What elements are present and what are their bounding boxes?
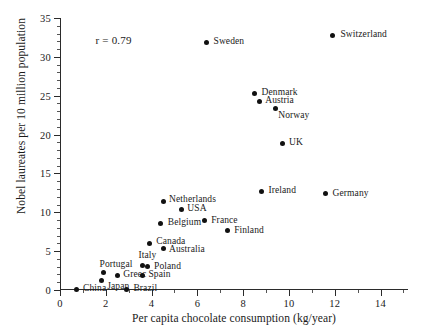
data-point: [145, 264, 150, 269]
data-point-label: Spain: [148, 269, 170, 279]
x-tick-label: 6: [195, 298, 200, 309]
data-point: [204, 40, 209, 45]
data-point-label: Brazil: [133, 283, 157, 293]
x-tick-minor: [312, 290, 313, 293]
y-tick-minor: [57, 88, 60, 89]
data-point: [147, 241, 152, 246]
x-tick-minor: [174, 290, 175, 293]
y-tick-minor: [57, 142, 60, 143]
data-point: [115, 273, 120, 278]
data-point: [202, 218, 207, 223]
x-tick-label: 8: [240, 298, 245, 309]
data-point: [158, 221, 163, 226]
data-point-label: China: [83, 283, 106, 293]
data-point-label: Sweden: [214, 36, 245, 46]
data-point-label: Poland: [154, 261, 181, 271]
correlation-annotation: r = 0.79: [95, 34, 131, 46]
x-tick-minor: [266, 290, 267, 293]
y-axis-line: [60, 18, 61, 290]
y-tick-major: [54, 135, 60, 136]
data-point: [273, 106, 278, 111]
data-point: [101, 270, 106, 275]
data-point-label: Japan: [107, 281, 129, 291]
x-axis-label: Per capita chocolate consumption (kg/yea…: [60, 312, 408, 324]
plot-area: 05101520253035 02468101214 ChinaBrazilJa…: [60, 18, 408, 290]
y-tick-label: 30: [40, 51, 51, 62]
data-point-label: Switzerland: [340, 29, 386, 39]
y-axis-label: Nobel laureates per 10 million populatio…: [15, 0, 27, 241]
y-tick-major: [54, 173, 60, 174]
y-tick-major: [54, 212, 60, 213]
data-point: [330, 33, 335, 38]
y-tick-minor: [57, 189, 60, 190]
data-point: [161, 199, 166, 204]
x-tick-label: 2: [103, 298, 108, 309]
y-tick-major: [54, 57, 60, 58]
x-tick-label: 0: [57, 298, 62, 309]
data-point: [74, 287, 79, 292]
y-tick-minor: [57, 282, 60, 283]
y-tick-label: 10: [40, 207, 51, 218]
x-tick-major: [197, 290, 198, 296]
y-tick-minor: [57, 150, 60, 151]
data-point-label: USA: [187, 203, 206, 213]
data-point: [225, 228, 230, 233]
data-point-label: UK: [289, 137, 303, 147]
data-point-label: Netherlands: [169, 194, 216, 204]
x-tick-label: 10: [283, 298, 294, 309]
data-point-label: Ireland: [268, 185, 296, 195]
data-point: [252, 91, 257, 96]
data-point-label: Portugal: [100, 259, 133, 269]
y-tick-minor: [57, 127, 60, 128]
x-tick-major: [335, 290, 336, 296]
y-tick-minor: [57, 259, 60, 260]
data-point: [99, 278, 104, 283]
y-tick-minor: [57, 49, 60, 50]
y-tick-minor: [57, 166, 60, 167]
data-point-label: Norway: [278, 110, 309, 120]
data-point: [259, 189, 264, 194]
x-tick-label: 12: [329, 298, 340, 309]
y-tick-minor: [57, 205, 60, 206]
y-tick-major: [54, 251, 60, 252]
x-tick-label: 14: [375, 298, 386, 309]
x-tick-major: [243, 290, 244, 296]
data-point: [323, 191, 328, 196]
y-tick-minor: [57, 80, 60, 81]
y-tick-minor: [57, 267, 60, 268]
data-point-label: Canada: [156, 236, 185, 246]
y-tick-minor: [57, 243, 60, 244]
y-tick-minor: [57, 158, 60, 159]
y-tick-label: 25: [40, 90, 51, 101]
y-tick-label: 15: [40, 168, 51, 179]
y-tick-minor: [57, 228, 60, 229]
y-tick-minor: [57, 111, 60, 112]
data-point-label: Finland: [234, 225, 264, 235]
data-point: [280, 141, 285, 146]
y-tick-minor: [57, 72, 60, 73]
y-tick-minor: [57, 26, 60, 27]
x-tick-major: [289, 290, 290, 296]
x-tick-minor: [403, 290, 404, 293]
y-tick-minor: [57, 34, 60, 35]
y-tick-major: [54, 96, 60, 97]
data-point: [179, 207, 184, 212]
y-tick-minor: [57, 220, 60, 221]
y-tick-minor: [57, 65, 60, 66]
x-tick-minor: [220, 290, 221, 293]
y-tick-minor: [57, 274, 60, 275]
y-tick-minor: [57, 41, 60, 42]
y-tick-major: [54, 18, 60, 19]
data-point-label: Italy: [138, 250, 156, 260]
data-point-label: France: [211, 215, 237, 225]
data-point-label: Belgium: [168, 217, 201, 227]
y-tick-label: 20: [40, 129, 51, 140]
y-tick-label: 35: [40, 13, 51, 24]
x-tick-major: [60, 290, 61, 296]
y-tick-minor: [57, 181, 60, 182]
y-tick-minor: [57, 197, 60, 198]
data-point: [257, 99, 262, 104]
y-tick-minor: [57, 103, 60, 104]
data-point-label: Denmark: [262, 87, 298, 97]
x-tick-label: 4: [149, 298, 154, 309]
